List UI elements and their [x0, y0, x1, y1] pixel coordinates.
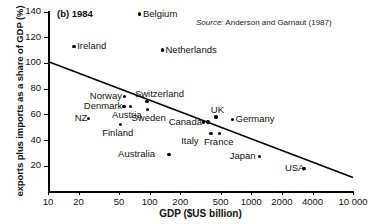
- data-point-label: Ireland: [77, 40, 106, 51]
- data-point-label: Japan: [230, 150, 256, 161]
- data-point-label: USA: [285, 162, 305, 173]
- data-point-label: NZ: [75, 112, 88, 123]
- data-point-label: Germany: [236, 113, 275, 124]
- data-point-label: Australia: [118, 148, 155, 159]
- data-point-label: Sweden: [132, 112, 166, 123]
- data-point-label: Switzerland: [135, 88, 184, 99]
- data-point: [167, 153, 170, 156]
- data-point-label: France: [204, 136, 234, 147]
- data-point: [72, 45, 75, 48]
- data-point-label: Finland: [102, 127, 133, 138]
- data-point-label: Belgium: [143, 8, 177, 19]
- data-point: [209, 132, 212, 135]
- data-point: [145, 100, 148, 103]
- data-point: [161, 48, 164, 51]
- data-point: [146, 108, 149, 111]
- data-point: [122, 105, 125, 108]
- data-point-label: UK: [211, 104, 224, 115]
- data-point-label: Netherlands: [166, 44, 217, 55]
- data-point: [214, 115, 217, 118]
- data-point-label: Italy: [181, 135, 198, 146]
- data-point-label: Canada: [169, 116, 202, 127]
- data-point: [206, 120, 209, 123]
